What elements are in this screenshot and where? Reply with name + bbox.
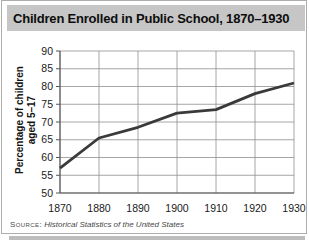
x-tick-label: 1910 bbox=[204, 202, 228, 214]
source-prefix-label: Source: bbox=[10, 220, 42, 229]
card-shadow bbox=[9, 236, 305, 240]
y-tick-label: 90 bbox=[41, 45, 53, 57]
chart-card: Children Enrolled in Public School, 1870… bbox=[1, 0, 307, 234]
y-tick-label: 50 bbox=[41, 187, 53, 199]
line-chart: 5055606570758085901870188018901900191019… bbox=[2, 1, 307, 233]
y-tick-label: 75 bbox=[41, 98, 53, 110]
y-tick-label: 55 bbox=[41, 169, 53, 181]
source-note: Source: Historical Statistics of the Uni… bbox=[10, 220, 184, 229]
x-tick-label: 1920 bbox=[243, 202, 267, 214]
y-tick-label: 85 bbox=[41, 62, 53, 74]
y-tick-label: 80 bbox=[41, 80, 53, 92]
x-tick-label: 1930 bbox=[282, 202, 306, 214]
x-tick-label: 1880 bbox=[87, 202, 111, 214]
x-tick-label: 1900 bbox=[165, 202, 189, 214]
y-tick-label: 60 bbox=[41, 151, 53, 163]
source-text: Historical Statistics of the United Stat… bbox=[44, 220, 184, 229]
y-tick-label: 70 bbox=[41, 116, 53, 128]
x-tick-label: 1870 bbox=[48, 202, 72, 214]
y-tick-label: 65 bbox=[41, 133, 53, 145]
x-tick-label: 1890 bbox=[126, 202, 150, 214]
